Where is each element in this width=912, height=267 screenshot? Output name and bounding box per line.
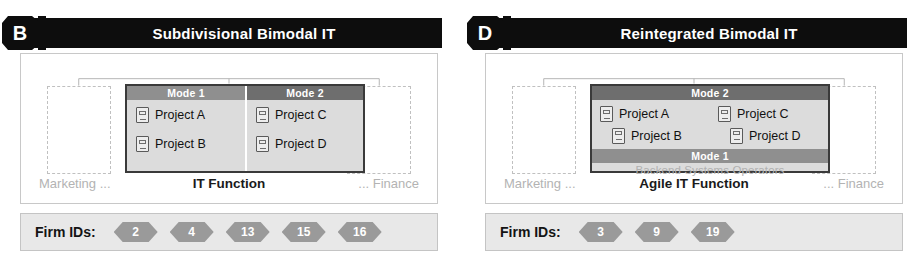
mode-column-1: Mode 1 Project A Project B	[127, 86, 245, 171]
project-item: Project D	[710, 128, 828, 144]
panel-b-badge: B	[2, 16, 46, 50]
panel-d-title: Reintegrated Bimodal IT	[594, 25, 797, 42]
mode-2-block: Mode 2 Project A Project C Project B	[592, 86, 828, 149]
mode-2-project-list: Project C Project D	[247, 100, 363, 152]
firm-ids-list: 2 4 13 15 16	[114, 222, 382, 242]
firm-id-badge: 3	[579, 222, 623, 242]
project-label: Project A	[619, 107, 669, 121]
panel-b-title: Subdivisional Bimodal IT	[126, 25, 335, 42]
project-label: Project D	[749, 129, 800, 143]
firm-ids-label: Firm IDs:	[35, 224, 96, 240]
firm-id-badge: 19	[691, 222, 735, 242]
firm-id-badge: 16	[338, 222, 382, 242]
firm-ids-label: Firm IDs:	[500, 224, 561, 240]
firm-id-badge: 2	[114, 222, 158, 242]
project-document-icon	[256, 107, 269, 123]
project-document-icon	[256, 136, 269, 152]
project-item: Project C	[710, 106, 828, 122]
panel-d-firm-ids-strip: Firm IDs: 3 9 19	[485, 213, 903, 251]
project-document-icon	[730, 128, 743, 144]
project-document-icon	[718, 106, 731, 122]
project-item: Project D	[256, 136, 363, 152]
panel-d-badge: D	[467, 16, 511, 50]
it-function-container: Mode 1 Project A Project B Mode 2	[125, 84, 365, 173]
project-label: Project A	[155, 108, 205, 122]
panel-b-titlebar: Subdivisional Bimodal IT	[20, 18, 442, 48]
mode-1-block: Mode 1 Backend Systems Operators	[592, 149, 828, 178]
mode-2-header: Mode 2	[247, 86, 363, 100]
project-item: Project B	[592, 128, 710, 144]
firm-id-badge: 13	[226, 222, 270, 242]
firm-id-badge: 15	[282, 222, 326, 242]
panel-d: Reintegrated Bimodal IT D Mode 2 Project…	[465, 0, 911, 267]
panel-d-titlebar: Reintegrated Bimodal IT	[485, 18, 907, 48]
firm-id-badge: 4	[170, 222, 214, 242]
panel-b-firm-ids-strip: Firm IDs: 2 4 13 15 16	[20, 213, 438, 251]
panel-b: Subdivisional Bimodal IT B Mode 1 Projec…	[0, 0, 446, 267]
project-document-icon	[136, 107, 149, 123]
mode-1-header: Mode 1	[127, 86, 245, 100]
agile-it-function-container: Mode 2 Project A Project C Project B	[590, 84, 830, 173]
mode-2-header: Mode 2	[592, 86, 828, 100]
project-label: Project C	[737, 107, 788, 121]
project-document-icon	[612, 128, 625, 144]
bimodal-it-figure: Subdivisional Bimodal IT B Mode 1 Projec…	[0, 0, 912, 267]
project-label: Project D	[275, 137, 326, 151]
project-label: Project C	[275, 108, 326, 122]
project-label: Project B	[631, 129, 682, 143]
label-agile-it-function: Agile IT Function	[486, 176, 902, 191]
mode-column-2: Mode 2 Project C Project D	[245, 86, 363, 171]
project-item: Project A	[592, 106, 710, 122]
project-document-icon	[136, 136, 149, 152]
project-item: Project B	[136, 136, 245, 152]
project-label: Project B	[155, 137, 206, 151]
firm-id-badge: 9	[635, 222, 679, 242]
mode-1-project-list: Project A Project B	[127, 100, 245, 152]
unit-box-marketing	[512, 86, 576, 174]
panel-b-org-chart: Mode 1 Project A Project B Mode 2	[20, 53, 438, 204]
firm-ids-list: 3 9 19	[579, 222, 735, 242]
project-document-icon	[600, 106, 613, 122]
panel-d-org-chart: Mode 2 Project A Project C Project B	[485, 53, 903, 204]
label-it-function: IT Function	[21, 176, 437, 191]
mode-1-header: Mode 1	[592, 149, 828, 163]
project-item: Project A	[136, 107, 245, 123]
project-item: Project C	[256, 107, 363, 123]
mode-2-project-grid: Project A Project C Project B Proje	[592, 100, 828, 149]
unit-box-marketing	[47, 86, 111, 174]
